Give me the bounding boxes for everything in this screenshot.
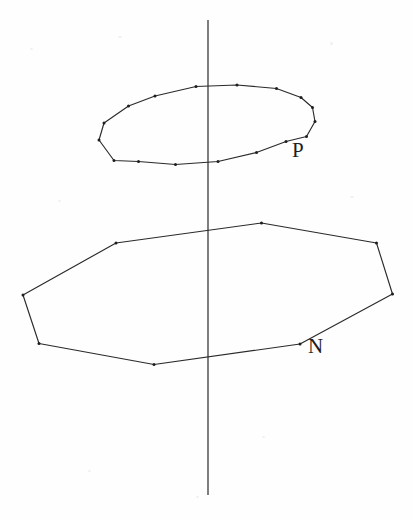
polygon-vertex [275, 87, 278, 90]
polygon-vertex [174, 163, 177, 166]
polygon-vertex [255, 151, 258, 154]
upper-polygon-vertices [98, 84, 317, 167]
polygon-vertex [22, 294, 25, 297]
polygon-vertex [154, 95, 157, 98]
polygon-vertex [98, 139, 101, 142]
polygon-vertex [217, 160, 220, 163]
polygon-vertex [314, 120, 317, 123]
figure-canvas: P N [0, 0, 414, 520]
polygon-vertex [236, 84, 239, 87]
polygon-vertex [311, 106, 314, 109]
polygon-vertex [195, 85, 198, 88]
polygon-vertex [113, 159, 116, 162]
polygon-vertex [305, 135, 308, 138]
polygon-vertex [375, 242, 378, 245]
polygon-vertex [153, 363, 156, 366]
polygon-vertex [38, 342, 41, 345]
polygon-vertex [300, 96, 303, 99]
polygon-vertex [299, 343, 302, 346]
label-n: N [308, 336, 323, 357]
polygon-vertex [391, 293, 394, 296]
label-p: P [292, 140, 304, 161]
polygon-vertex [103, 122, 106, 125]
polygon-vertex [285, 140, 288, 143]
polygon-vertex [137, 160, 140, 163]
figure-svg [0, 0, 414, 520]
polygon-vertex [115, 242, 118, 245]
upper-polygon-p [99, 85, 315, 165]
polygon-vertex [127, 105, 130, 108]
polygon-vertex [260, 222, 263, 225]
